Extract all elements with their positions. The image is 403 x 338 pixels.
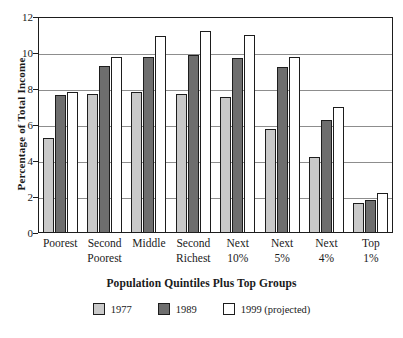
bar [143, 57, 154, 233]
bar [321, 120, 332, 233]
x-axis-category-labels: PoorestSecondPoorestMiddleSecondRichestN… [38, 236, 393, 276]
x-category-label-line2: 1% [343, 251, 399, 266]
y-tick-label: 2 [7, 192, 33, 203]
bar-group [171, 17, 215, 233]
legend-swatch [223, 303, 235, 315]
bar [55, 95, 66, 233]
bar [333, 107, 344, 233]
bar [277, 67, 288, 234]
legend-item: 1977 [93, 303, 132, 315]
bar [188, 55, 199, 233]
bar [43, 138, 54, 233]
bar [265, 129, 276, 233]
bar-group [349, 17, 393, 233]
bar-group [38, 17, 82, 233]
y-tick-mark [33, 233, 38, 234]
bar [220, 97, 231, 233]
x-axis-title: Population Quintiles Plus Top Groups [0, 277, 403, 289]
y-tick-label: 10 [7, 48, 33, 59]
y-tick-label: 12 [7, 12, 33, 23]
legend-swatch [93, 303, 105, 315]
bar [67, 92, 78, 233]
bar [232, 58, 243, 233]
bar [111, 57, 122, 233]
bars-layer [38, 17, 393, 233]
bar-group [216, 17, 260, 233]
bar [309, 157, 320, 233]
bar-group [82, 17, 126, 233]
y-tick-label: 4 [7, 156, 33, 167]
bar [87, 94, 98, 234]
y-tick-label: 0 [7, 228, 33, 239]
y-tick-label: 8 [7, 84, 33, 95]
legend-swatch [158, 303, 170, 315]
bar-group [304, 17, 348, 233]
chart-legend: 197719891999 (projected) [0, 303, 403, 315]
legend-label: 1999 (projected) [241, 304, 311, 315]
x-category-label: Top1% [343, 236, 399, 266]
x-category-label-line1: Top [343, 236, 399, 251]
legend-label: 1989 [176, 304, 197, 315]
bar [289, 57, 300, 233]
bar [377, 193, 388, 234]
bar [353, 203, 364, 233]
bar [131, 92, 142, 233]
bar [200, 31, 211, 234]
bar [365, 200, 376, 233]
legend-item: 1999 (projected) [223, 303, 311, 315]
x-category-label-line2: Poorest [76, 251, 132, 266]
bar-group [127, 17, 171, 233]
y-tick-label: 6 [7, 120, 33, 131]
legend-item: 1989 [158, 303, 197, 315]
legend-label: 1977 [111, 304, 132, 315]
bar [176, 94, 187, 234]
bar [99, 66, 110, 233]
bar [155, 36, 166, 233]
bar [244, 35, 255, 233]
bar-group [260, 17, 304, 233]
bar-chart: Percentage of Total Income 024681012 Poo… [0, 0, 403, 338]
